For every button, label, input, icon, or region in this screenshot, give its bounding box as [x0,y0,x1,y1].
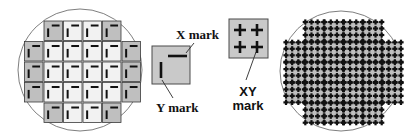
die-body [25,83,44,103]
wafer-die [103,62,122,82]
cross-arm-vertical [317,120,319,125]
wafer-die [83,42,102,62]
cross-arm-vertical [330,19,332,24]
die-body [44,83,63,103]
cross-arm-vertical [362,26,364,31]
cross-arm-vertical [304,46,306,51]
cross-arm-vertical [381,60,383,65]
cross-arm-vertical [297,67,299,72]
cross-arm-vertical [336,67,338,72]
die-body [383,42,402,62]
cross-arm-vertical [291,73,293,78]
cross-arm-vertical [330,26,332,31]
cross-arm-vertical [343,93,345,98]
die-body [305,22,324,42]
wafer-die [44,42,63,62]
cross-arm-vertical [374,101,376,106]
die-body [344,63,363,83]
die-x-mark [52,45,60,47]
cross-arm-vertical [374,53,376,58]
cross-arm-vertical [349,87,351,92]
wafer-die [83,103,102,123]
die-y-mark [47,110,49,119]
cross-arm-vertical [324,32,326,37]
die-body [83,21,102,41]
die-body [344,83,363,103]
cross-arm-vertical [336,101,338,106]
die-x-mark [71,45,79,47]
cross-arm-vertical [362,32,364,37]
cross-arm-vertical [324,120,326,125]
cross-arm-vertical [388,93,390,98]
die-y-mark [86,49,88,58]
die-y-mark [125,49,127,58]
cross-arm-vertical [317,53,319,58]
cross-arm-vertical [330,107,332,112]
cross-arm-vertical [374,73,376,78]
cross-arm-vertical [343,80,345,85]
die-body [64,42,83,62]
die-body [363,42,382,62]
cross-arm-vertical [374,80,376,85]
cross-arm-vertical [291,93,293,98]
die-x-mark [71,25,79,27]
cross-arm-vertical [336,26,338,31]
cross-arm-vertical [362,93,364,98]
wafer-die [64,83,83,103]
die-x-mark [130,45,138,47]
cross-arm-vertical [381,26,383,31]
cross-arm-vertical [304,40,306,45]
die-x-mark [91,25,99,27]
cross-arm-vertical [343,101,345,106]
wafer-die [380,80,404,105]
cross-arm-vertical [349,26,351,31]
wafer-die [64,21,83,41]
cross-arm-vertical [330,46,332,51]
cross-arm-vertical [304,80,306,85]
die-body [103,103,122,123]
cross-arm-vertical [297,80,299,85]
cross-arm-vertical [381,32,383,37]
cross-arm-vertical [297,53,299,58]
cross-arm-vertical [297,73,299,78]
cross-arm-vertical [362,73,364,78]
die-y-mark [125,90,127,99]
cross-arm-vertical [317,93,319,98]
cross-arm-vertical [362,46,364,51]
cross-arm-vertical [336,40,338,45]
wafer-die [44,62,63,82]
cross-arm-vertical [349,32,351,37]
cross-arm-vertical [374,107,376,112]
die-body [64,62,83,82]
cross-arm-vertical [368,93,370,98]
cross-arm-vertical [362,80,364,85]
die-x-mark [91,45,99,47]
cross-arm-vertical [343,32,345,37]
die-body [305,83,324,103]
cross-arm-vertical [381,120,383,125]
cross-arm-vertical [388,40,390,45]
die-y-mark [67,28,69,37]
die-x-mark [52,86,60,88]
cross-arm-vertical [362,67,364,72]
die-x-mark [130,66,138,68]
die-body [286,42,305,62]
die-x-mark [110,45,118,47]
wafer-die [25,62,44,82]
cross-arm-vertical [343,120,345,125]
die-x-mark [71,107,79,109]
cross-arm-vertical [330,60,332,65]
die-x-mark [110,66,118,68]
cross-arm-vertical [394,87,396,92]
cross-arm-vertical [330,73,332,78]
cross-arm-vertical [374,67,376,72]
cross-arm-vertical [355,40,357,45]
cross-arm-vertical [285,60,287,65]
die-y-mark [67,69,69,78]
cross-arm-vertical [349,101,351,106]
cross-arm-vertical [394,46,396,51]
cross-arm-vertical [349,53,351,58]
wafer-die [44,21,63,41]
cross-arm-vertical [400,100,402,105]
cross-arm-vertical [324,40,326,45]
